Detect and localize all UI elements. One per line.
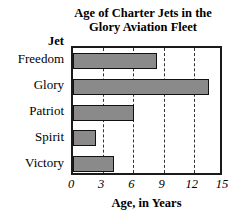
x-tick-0: 0	[68, 177, 74, 192]
bar-victory	[73, 156, 114, 172]
bar-row	[73, 105, 220, 121]
x-tick-12: 12	[186, 177, 199, 192]
bar-freedom	[73, 53, 157, 69]
chart-title-line-2: Glory Aviation Fleet	[52, 20, 234, 34]
x-tick-3: 3	[98, 177, 104, 192]
chart-title-line-1: Age of Charter Jets in the	[52, 6, 234, 20]
bar-row	[73, 130, 220, 146]
y-label-patriot: Patriot	[29, 104, 64, 117]
y-axis-title: Jet	[48, 34, 64, 49]
bar-glory	[73, 79, 209, 95]
y-label-glory: Glory	[34, 78, 64, 91]
bar-series	[73, 48, 220, 173]
x-tick-6: 6	[128, 177, 134, 192]
y-label-freedom: Freedom	[18, 52, 64, 65]
x-axis-title: Age, in Years	[71, 196, 222, 211]
bar-row	[73, 79, 220, 95]
x-tick-15: 15	[216, 177, 229, 192]
bar-row	[73, 53, 220, 69]
y-label-spirit: Spirit	[35, 130, 64, 143]
bar-spirit	[73, 130, 96, 146]
bar-row	[73, 156, 220, 172]
bar-patriot	[73, 105, 134, 121]
chart-title: Age of Charter Jets in the Glory Aviatio…	[52, 6, 234, 34]
y-label-victory: Victory	[25, 156, 64, 169]
x-tick-9: 9	[158, 177, 164, 192]
plot-area	[71, 46, 222, 175]
bar-chart: Age of Charter Jets in the Glory Aviatio…	[0, 0, 237, 219]
x-axis-tick-labels: 03691215	[0, 177, 237, 193]
